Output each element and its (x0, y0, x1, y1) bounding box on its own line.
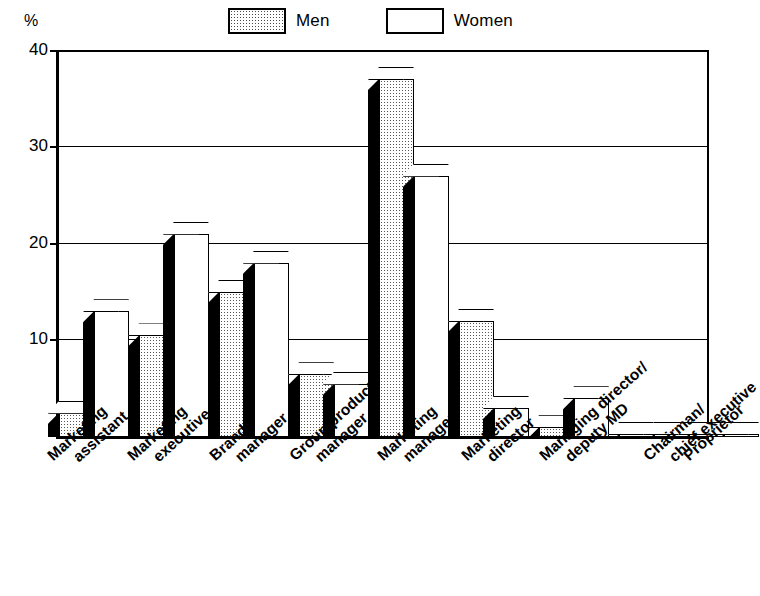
tick-40 (50, 50, 57, 52)
legend-item-men: Men (228, 8, 330, 34)
x-axis-labels: MarketingassistantMarketingexecutiveBran… (0, 441, 723, 596)
bars-layer (57, 50, 709, 437)
legend-label-men: Men (296, 11, 330, 31)
chart-legend: Men Women (228, 8, 513, 34)
y-tick-30: 30 (14, 136, 48, 156)
bar-women-4 (414, 165, 449, 437)
bar-side-face (403, 176, 414, 437)
y-tick-10: 10 (14, 329, 48, 349)
legend-item-women: Women (386, 8, 513, 34)
plot-area (57, 50, 709, 437)
bar-side-face (48, 413, 59, 437)
tick-30 (50, 146, 57, 148)
tick-20 (50, 243, 57, 245)
tick-10 (50, 339, 57, 341)
y-tick-20: 20 (14, 233, 48, 253)
women-swatch-icon (386, 8, 444, 34)
y-tick-40: 40 (14, 40, 48, 60)
y-axis-unit-label: % (24, 12, 38, 30)
legend-label-women: Women (454, 11, 513, 31)
bar-side-face (288, 374, 299, 437)
men-swatch-icon (228, 8, 286, 34)
